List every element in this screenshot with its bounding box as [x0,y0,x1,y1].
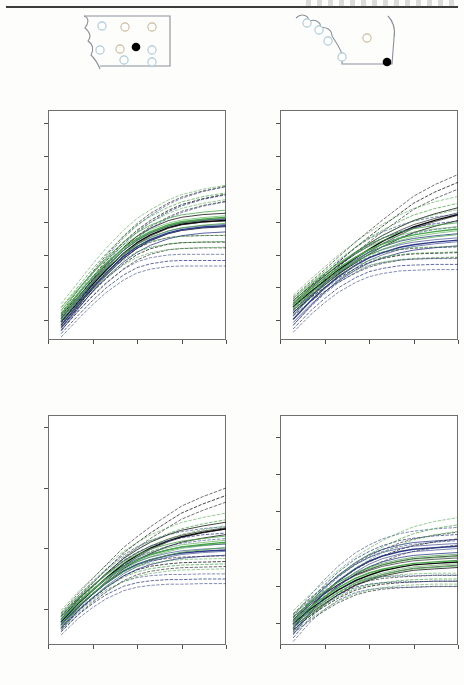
imperial-map [288,8,400,72]
series-curve [61,527,226,615]
series-curve [61,550,226,624]
series-curve [293,264,458,328]
shasta-map [82,10,178,72]
series-curve [61,535,226,625]
series-curve [293,560,458,621]
series-curve [61,216,226,308]
series-curve [61,544,226,621]
curve-layer [4,383,230,669]
series-curve [61,502,226,619]
series-curve [61,186,226,313]
series-curve [61,579,226,632]
series-curve [293,539,458,624]
page-header-faint-text [306,0,456,7]
series-curve [61,219,226,322]
series-curve [293,259,458,326]
chart-panel-top-left [4,78,230,364]
curve-layer [236,78,462,364]
chart-panel-top-right [236,78,462,364]
series-curve [61,235,226,317]
curve-layer [4,78,230,364]
chart-panel-bottom-left [4,383,230,669]
chart-panel-bottom-right [236,383,462,669]
series-curve [61,529,226,627]
figure-page [0,0,464,685]
curve-layer [236,383,462,669]
series-curve [293,541,458,625]
series-curve [61,556,226,625]
